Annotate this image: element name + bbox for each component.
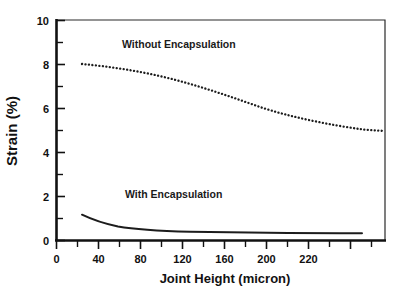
x-tick-label: 0 xyxy=(53,253,59,265)
y-tick-label: 2 xyxy=(43,191,49,203)
annotation-without-encapsulation: Without Encapsulation xyxy=(122,38,236,50)
x-tick-label: 80 xyxy=(134,253,146,265)
y-tick-label: 6 xyxy=(43,103,49,115)
x-tick-label: 220 xyxy=(299,253,317,265)
x-tick-label: 160 xyxy=(215,253,233,265)
x-tick-label: 40 xyxy=(92,253,104,265)
y-tick-label: 8 xyxy=(43,59,49,71)
y-tick-label: 4 xyxy=(43,147,50,159)
y-tick-label: 0 xyxy=(43,235,49,247)
y-tick-label: 10 xyxy=(37,15,49,27)
chart-figure: 10 8 6 4 2 0 0 40 80 120 160 200 220 Joi… xyxy=(0,0,416,303)
y-axis-title: Strain (%) xyxy=(3,96,20,166)
x-tick-label: 200 xyxy=(257,253,275,265)
annotation-with-encapsulation: With Encapsulation xyxy=(125,188,222,200)
x-tick-label: 120 xyxy=(173,253,191,265)
x-axis-title: Joint Height (micron) xyxy=(160,271,291,286)
strain-vs-joint-height-chart: 10 8 6 4 2 0 0 40 80 120 160 200 220 Joi… xyxy=(0,0,416,303)
